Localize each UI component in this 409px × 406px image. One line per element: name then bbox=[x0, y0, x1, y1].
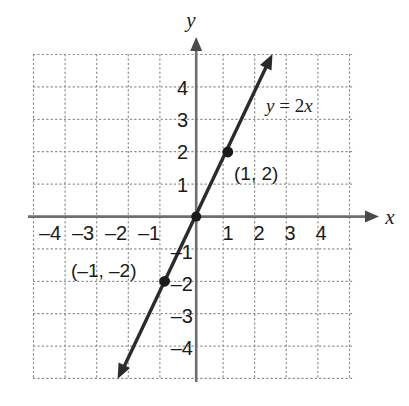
x-axis-label: x bbox=[384, 205, 395, 229]
point-origin bbox=[191, 212, 201, 222]
equation-label: y = 2x bbox=[264, 95, 313, 116]
x-tick--3: –3 bbox=[72, 222, 94, 244]
equation-lhs: y bbox=[264, 95, 275, 116]
coordinate-plane-svg: y x –4 –3 –2 –1 1 2 3 4 4 3 2 1 –1 –2 –3 bbox=[0, 0, 409, 406]
x-tick-4: 4 bbox=[315, 222, 326, 244]
equation-rhs: x bbox=[303, 95, 313, 116]
axes bbox=[28, 37, 379, 382]
y-tick--2: –2 bbox=[171, 273, 193, 295]
y-tick-1: 1 bbox=[177, 174, 188, 196]
x-tick--1: –1 bbox=[138, 222, 160, 244]
x-tick--4: –4 bbox=[39, 222, 61, 244]
x-tick-1: 1 bbox=[222, 222, 233, 244]
x-tick--2: –2 bbox=[105, 222, 127, 244]
y-tick-labels-positive: 4 3 2 1 bbox=[177, 77, 188, 196]
graph-figure: y x –4 –3 –2 –1 1 2 3 4 4 3 2 1 –1 –2 –3 bbox=[0, 0, 409, 406]
point-neg1-neg2 bbox=[159, 276, 170, 287]
x-tick-labels-positive: 1 2 3 4 bbox=[222, 222, 326, 244]
y-tick-labels-negative: –1 –2 –3 –4 bbox=[171, 241, 193, 359]
point-label-lower: (–1, –2) bbox=[71, 260, 136, 281]
y-axis-label: y bbox=[184, 8, 196, 32]
y-tick--3: –3 bbox=[171, 305, 193, 327]
y-tick--4: –4 bbox=[171, 337, 193, 359]
y-tick-3: 3 bbox=[177, 109, 188, 131]
x-tick-labels-negative: –4 –3 –2 –1 bbox=[39, 222, 160, 244]
x-tick-3: 3 bbox=[284, 222, 295, 244]
equation-operator: = 2 bbox=[274, 95, 304, 116]
point-label-upper: (1, 2) bbox=[234, 163, 278, 184]
y-tick-2: 2 bbox=[177, 141, 188, 163]
y-tick-4: 4 bbox=[177, 77, 188, 99]
x-tick-2: 2 bbox=[253, 222, 264, 244]
x-axis-arrowhead bbox=[365, 211, 379, 223]
point-1-2 bbox=[222, 147, 233, 158]
y-axis-arrowhead bbox=[190, 37, 202, 51]
y-tick--1: –1 bbox=[171, 241, 193, 263]
